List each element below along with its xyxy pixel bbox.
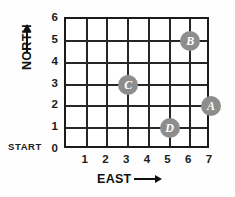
y-axis-title: NORTH (20, 56, 34, 70)
grid-line-horizontal (66, 105, 207, 107)
y-tick-label: 2 (42, 98, 58, 110)
grid-plot-area: ABCD (64, 17, 209, 148)
east-arrow-icon (134, 178, 156, 180)
data-point-marker-a: A (201, 96, 221, 116)
x-tick-label: 5 (159, 153, 177, 165)
coordinate-grid-figure: NORTH START 6543210 ABCD 1234567 EAST (0, 0, 235, 197)
y-axis-tick-labels: 6543210 (38, 17, 58, 148)
y-tick-label: 0 (42, 142, 58, 154)
start-label: START (8, 141, 42, 152)
y-tick-label: 1 (42, 120, 58, 132)
y-tick-label: 6 (42, 11, 58, 23)
x-tick-label: 1 (76, 153, 94, 165)
y-tick-label: 5 (42, 33, 58, 45)
grid-line-horizontal (66, 127, 207, 129)
grid-line-horizontal (66, 62, 207, 64)
x-tick-label: 2 (96, 153, 114, 165)
y-tick-label: 4 (42, 55, 58, 67)
data-point-marker-d: D (160, 118, 180, 138)
data-point-marker-c: C (118, 75, 138, 95)
x-axis-tick-labels: 1234567 (64, 153, 209, 167)
x-axis-title-group: EAST (97, 172, 156, 186)
x-tick-label: 7 (200, 153, 218, 165)
x-tick-label: 4 (138, 153, 156, 165)
x-tick-label: 3 (117, 153, 135, 165)
x-axis-title: EAST (97, 172, 132, 186)
x-tick-label: 6 (179, 153, 197, 165)
data-point-marker-b: B (180, 31, 200, 51)
y-tick-label: 3 (42, 77, 58, 89)
